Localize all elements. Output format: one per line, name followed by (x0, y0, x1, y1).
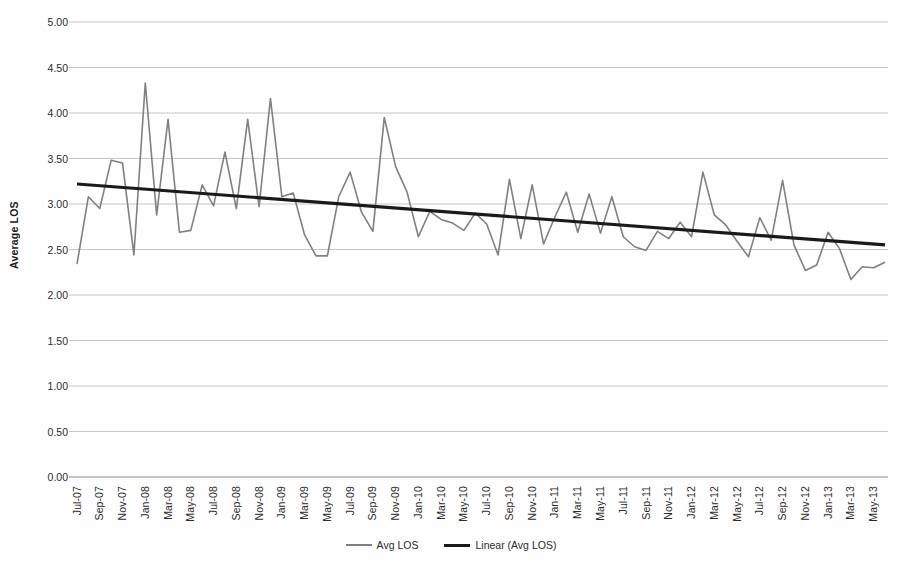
legend-item[interactable]: Linear (Avg LOS) (444, 539, 556, 551)
x-axis-tick-label: Mar-11 (572, 486, 583, 519)
x-axis-tick-label: Sep-08 (231, 486, 242, 520)
series-line-avg-los (77, 83, 885, 280)
x-axis-tick-label: Jan-13 (823, 486, 834, 519)
x-axis-tick-label: Sep-11 (641, 486, 652, 520)
y-axis-tick-label: 3.50 (30, 154, 68, 164)
y-axis-tick-label: 3.00 (30, 199, 68, 209)
y-axis-tick-label: 4.00 (30, 108, 68, 118)
x-axis-tick-label: Sep-12 (777, 486, 788, 520)
legend-swatch-icon (444, 544, 470, 547)
y-axis-tick-label: 2.00 (30, 290, 68, 300)
x-axis-tick-label: May-09 (322, 486, 333, 522)
x-axis-tick-label: Jul-09 (345, 486, 356, 515)
x-axis-tick-label: Jan-09 (276, 486, 287, 519)
x-axis-tick-label: Mar-12 (709, 486, 720, 520)
y-axis-tick-label: 2.50 (30, 245, 68, 255)
x-axis-tick-label: Jan-12 (686, 486, 697, 519)
y-axis-tick-label: 5.00 (30, 17, 68, 27)
x-axis-tick-label: May-11 (595, 486, 606, 521)
y-axis-tick-label: 1.50 (30, 336, 68, 346)
x-axis-tick-label: Jul-12 (754, 486, 765, 515)
chart-container: Average LOS 0.000.501.001.502.002.503.00… (0, 0, 902, 563)
x-axis-tick-label: Jan-11 (549, 486, 560, 518)
legend-item[interactable]: Avg LOS (346, 539, 419, 551)
trendline-avg-los (77, 184, 885, 245)
chart-legend: Avg LOSLinear (Avg LOS) (0, 539, 902, 551)
y-axis-tick-label: 4.50 (30, 63, 68, 73)
x-axis-tick-labels: Jul-07Sep-07Nov-07Jan-08Mar-08May-08Jul-… (0, 486, 902, 563)
gridlines (69, 22, 888, 477)
x-axis-tick-label: Sep-10 (504, 486, 515, 520)
x-axis-tick-label: Jan-08 (140, 486, 151, 519)
x-axis-tick-label: Jan-10 (413, 486, 424, 519)
x-axis-tick-label: Nov-08 (254, 486, 265, 520)
plot-area (0, 0, 902, 563)
x-axis-tick-label: Jul-11 (618, 486, 629, 514)
x-axis-tick-label: May-12 (732, 486, 743, 522)
y-axis-tick-label: 0.50 (30, 427, 68, 437)
y-axis-title: Average LOS (2, 155, 26, 315)
x-axis-tick-label: Mar-08 (163, 486, 174, 520)
x-axis-tick-label: Sep-07 (94, 486, 105, 520)
x-axis-tick-label: Jul-07 (72, 486, 83, 515)
legend-swatch-icon (346, 544, 372, 546)
x-axis-tick-label: Nov-09 (390, 486, 401, 520)
legend-label: Linear (Avg LOS) (475, 539, 556, 551)
x-axis-tick-label: May-08 (185, 486, 196, 522)
x-axis-tick-label: Nov-11 (663, 486, 674, 520)
x-axis-tick-label: Mar-10 (436, 486, 447, 520)
y-axis-tick-label: 1.00 (30, 381, 68, 391)
x-axis-tick-label: Jul-08 (208, 486, 219, 515)
x-axis-tick-label: Mar-13 (845, 486, 856, 520)
x-axis-tick-label: Jul-10 (481, 486, 492, 515)
x-axis-tick-label: Nov-12 (800, 486, 811, 520)
y-axis-tick-label: 0.00 (30, 472, 68, 482)
legend-label: Avg LOS (377, 539, 419, 551)
x-axis-tick-label: Mar-09 (299, 486, 310, 520)
x-axis-tick-label: May-10 (458, 486, 469, 522)
x-axis-tick-label: Sep-09 (367, 486, 378, 520)
x-axis-tick-label: Nov-07 (117, 486, 128, 520)
x-axis-tick-label: May-13 (868, 486, 879, 522)
y-axis-tick-labels: 0.000.501.001.502.002.503.003.504.004.50… (30, 0, 68, 490)
x-axis-tick-label: Nov-10 (527, 486, 538, 520)
